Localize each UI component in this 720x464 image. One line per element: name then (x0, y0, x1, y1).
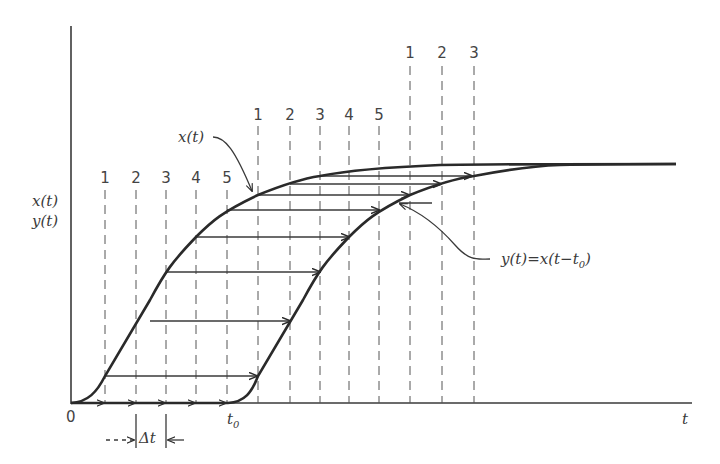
left-label-3: 3 (161, 169, 171, 187)
shift-arrows (105, 176, 472, 376)
x-curve-leader (213, 137, 252, 191)
left-label-1: 1 (100, 169, 110, 187)
y-curve-label-main: y(t)=x(t−t (500, 250, 580, 268)
y-curve-label: y(t)=x(t−t0) (500, 250, 591, 270)
t0-label: t0 (227, 410, 240, 430)
axes (71, 26, 692, 404)
delta-t-label: Δt (138, 429, 157, 447)
right-label-1: 1 (405, 44, 415, 62)
mid-label-5: 5 (374, 106, 384, 124)
mid-label-4: 4 (344, 106, 354, 124)
right-label-3: 3 (469, 44, 479, 62)
mid-label-2: 2 (285, 106, 295, 124)
t0-sub: 0 (233, 419, 240, 430)
y-axis-label-y: y(t) (31, 212, 58, 230)
x-curve (71, 164, 676, 403)
right-label-2: 2 (437, 44, 447, 62)
x-curve-label: x(t) (178, 128, 204, 146)
x-axis-label: t (682, 410, 689, 428)
y-curve-leader (400, 204, 490, 259)
left-label-4: 4 (191, 169, 201, 187)
y-curve (228, 164, 676, 403)
y-axis-label-x: x(t) (32, 192, 58, 210)
origin-label: 0 (66, 408, 76, 426)
left-label-2: 2 (131, 169, 141, 187)
left-label-5: 5 (222, 169, 232, 187)
mid-label-1: 1 (253, 106, 263, 124)
time-shift-diagram: 1 2 3 4 5 1 2 3 4 5 1 2 3 (0, 0, 720, 464)
y-curve-label-end: ) (584, 250, 591, 268)
mid-label-3: 3 (315, 106, 325, 124)
